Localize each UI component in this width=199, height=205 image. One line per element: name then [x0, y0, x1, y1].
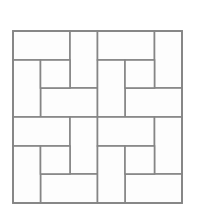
block-top-left-right-rect	[70, 31, 98, 88]
block-top-left-bottom-rect	[41, 88, 98, 117]
block-bottom-right-left-rect	[98, 146, 126, 203]
block-bottom-left	[13, 117, 98, 203]
block-bottom-left-bottom-rect	[41, 174, 98, 203]
block-top-left-center-square	[41, 60, 71, 88]
block-top-right-center-square	[125, 60, 155, 88]
block-top-right-left-rect	[98, 60, 126, 117]
block-bottom-right-bottom-rect	[125, 174, 182, 203]
block-top-right-top-rect	[98, 31, 155, 60]
block-bottom-right-center-square	[125, 146, 155, 174]
block-top-left	[13, 31, 98, 117]
block-bottom-right	[98, 117, 183, 203]
tiling-figure	[0, 0, 199, 205]
pinwheel-tiling-svg	[0, 0, 199, 205]
block-bottom-right-right-rect	[155, 117, 183, 174]
block-bottom-left-right-rect	[70, 117, 98, 174]
block-top-left-left-rect	[13, 60, 41, 117]
block-bottom-left-center-square	[41, 146, 71, 174]
block-top-right-right-rect	[155, 31, 183, 88]
block-top-right	[98, 31, 183, 117]
block-top-left-top-rect	[13, 31, 70, 60]
block-bottom-left-left-rect	[13, 146, 41, 203]
block-bottom-left-top-rect	[13, 117, 70, 146]
block-bottom-right-top-rect	[98, 117, 155, 146]
block-top-right-bottom-rect	[125, 88, 182, 117]
tiles-layer	[13, 31, 182, 203]
